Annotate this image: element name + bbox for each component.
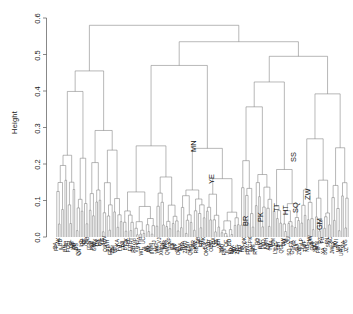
leaf-label: VG: [342, 239, 348, 246]
leaf-label: MI: [333, 239, 339, 245]
leaf-label: UC: [140, 236, 146, 244]
dendrogram-plot: Height 0.0 0.1 0.2 0.3 0.4 0.5 0.6 MNYES…: [0, 0, 353, 314]
dendrogram-tree: [57, 25, 348, 237]
inner-node-label: ZW: [303, 188, 312, 200]
inner-node-label: BR: [241, 216, 250, 226]
inner-node-label: PK: [256, 212, 265, 222]
inner-node-label: GM: [315, 218, 324, 230]
inner-node-label: MN: [189, 141, 198, 153]
leaf-label: UG: [322, 247, 328, 255]
inner-node-label: TT: [272, 202, 281, 212]
inner-node-label: YE: [207, 174, 216, 184]
inner-node-label: SS: [289, 152, 298, 162]
dendrogram-canvas: MNYESSZWSQHTTTPKBRGM OAFPAKBDIIILBNIBFDG…: [0, 0, 353, 314]
y-axis: [43, 18, 47, 237]
leaf-label: OT: [76, 248, 82, 255]
leaf-label: JZ: [343, 247, 349, 253]
leaf-labels: OAFPAKBDIIILBNIBFDGLLRWPQBDSQZOTLCORFFQL…: [52, 235, 349, 256]
inner-node-label: HT: [281, 205, 290, 215]
inner-node-label: SQ: [291, 202, 300, 213]
inner-node-labels: MNYESSZWSQHTTTPKBRGM: [189, 141, 324, 231]
